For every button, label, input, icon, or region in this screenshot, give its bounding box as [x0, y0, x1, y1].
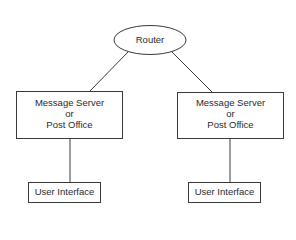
right-server-label: Message Server or Post Office [177, 97, 284, 131]
connector-router-left-server [90, 52, 128, 91]
router-label-text: Router [114, 34, 186, 46]
left-server-label-line-2: or [16, 109, 123, 119]
left-ui-label-text: User Interface [28, 186, 101, 198]
router-label: Router [114, 34, 186, 46]
left-ui-label: User Interface [28, 186, 101, 198]
left-server-label: Message Server or Post Office [16, 97, 123, 131]
right-server-label-line-3: Post Office [177, 119, 284, 131]
left-server-label-line-3: Post Office [16, 119, 123, 131]
connector-router-right-server [172, 52, 212, 92]
right-ui-label: User Interface [188, 186, 261, 198]
right-server-label-line-2: or [177, 109, 284, 119]
right-ui-label-text: User Interface [188, 186, 261, 198]
